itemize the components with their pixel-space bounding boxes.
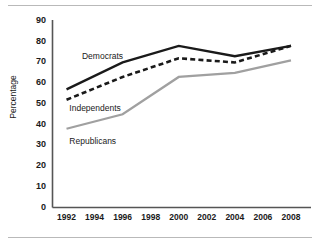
y-tick-label: 90 bbox=[20, 15, 46, 25]
line-chart-plot bbox=[0, 0, 320, 244]
y-tick-label: 80 bbox=[20, 36, 46, 46]
series-label-republicans: Republicans bbox=[69, 136, 116, 146]
series-line-republicans bbox=[67, 60, 291, 128]
y-tick-label: 30 bbox=[20, 139, 46, 149]
y-tick-label: 10 bbox=[20, 181, 46, 191]
y-tick-label: 20 bbox=[20, 160, 46, 170]
y-tick-label: 0 bbox=[20, 202, 46, 212]
y-tick-label: 60 bbox=[20, 77, 46, 87]
series-label-independents: Independents bbox=[69, 103, 121, 113]
y-tick-label: 70 bbox=[20, 56, 46, 66]
chart-figure: Percentage 0102030405060708090 199219941… bbox=[0, 0, 320, 244]
y-tick-label: 40 bbox=[20, 119, 46, 129]
chart-axes bbox=[53, 20, 312, 208]
series-label-democrats: Democrats bbox=[82, 51, 123, 61]
y-tick-label: 50 bbox=[20, 98, 46, 108]
x-tick-label: 2008 bbox=[274, 212, 308, 222]
